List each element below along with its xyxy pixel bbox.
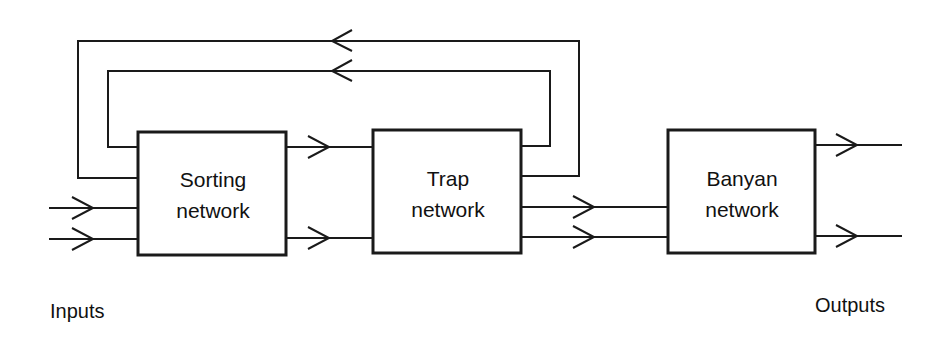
inputs-label: Inputs xyxy=(50,300,104,322)
sorting-network-label-line1: Sorting xyxy=(180,168,247,191)
switch-architecture-diagram: Sorting network Trap network Banyan netw… xyxy=(0,0,949,347)
banyan-network-label-line1: Banyan xyxy=(706,167,777,190)
sorting-to-trap-lines xyxy=(286,136,373,249)
trap-network-label-line1: Trap xyxy=(427,167,469,190)
trap-to-banyan-lines xyxy=(521,196,668,248)
banyan-network-block: Banyan network xyxy=(668,130,815,253)
sorting-network-label-line2: network xyxy=(176,199,250,222)
trap-network-label-line2: network xyxy=(411,198,485,221)
outputs-label: Outputs xyxy=(815,294,885,316)
trap-network-block: Trap network xyxy=(373,130,521,253)
input-lines xyxy=(49,197,138,250)
sorting-network-block: Sorting network xyxy=(138,132,286,255)
banyan-network-label-line2: network xyxy=(705,198,779,221)
output-lines xyxy=(815,134,902,247)
